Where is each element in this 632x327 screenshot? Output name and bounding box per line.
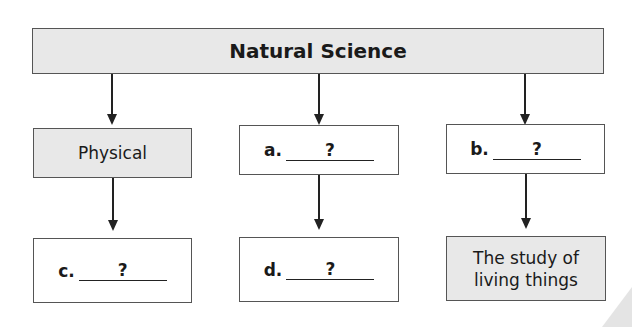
arrow-down-icon <box>314 219 324 230</box>
node-d-blank: d. ? <box>239 237 399 302</box>
root-label: Natural Science <box>229 39 407 63</box>
page-corner-decoration <box>602 287 632 327</box>
answer-blank: ? <box>286 259 374 280</box>
node-c-blank: c. ? <box>33 238 192 303</box>
node-label: Physical <box>78 143 147 163</box>
node-label-line2: living things <box>473 269 579 291</box>
node-b-blank: b. ? <box>446 124 605 174</box>
node-label-line1: The study of <box>473 247 579 269</box>
node-prefix: d. <box>264 260 283 280</box>
node-prefix: c. <box>58 261 75 281</box>
answer-blank: ? <box>493 139 581 160</box>
connector-line <box>525 174 527 220</box>
root-node-natural-science: Natural Science <box>32 28 604 74</box>
connector-line <box>318 74 320 116</box>
arrow-down-icon <box>521 218 531 229</box>
arrow-down-icon <box>314 114 324 125</box>
answer-blank: ? <box>286 140 374 161</box>
node-prefix: a. <box>264 140 282 160</box>
arrow-down-icon <box>107 114 117 125</box>
arrow-down-icon <box>108 220 118 231</box>
node-living-things: The study of living things <box>446 236 606 301</box>
node-prefix: b. <box>470 139 489 159</box>
connector-line <box>318 175 320 221</box>
node-physical: Physical <box>33 128 192 178</box>
connector-line <box>524 74 526 116</box>
connector-line <box>112 178 114 222</box>
connector-line <box>111 74 113 116</box>
node-a-blank: a. ? <box>239 125 399 175</box>
answer-blank: ? <box>79 260 167 281</box>
